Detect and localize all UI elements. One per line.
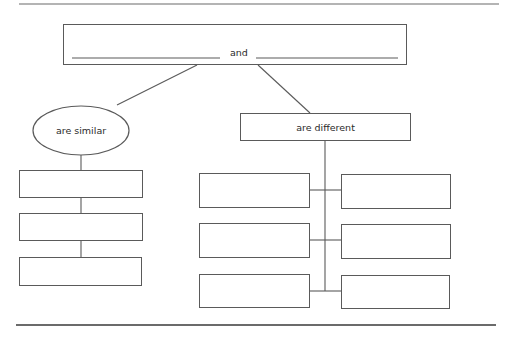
different-left-box-1[interactable] [199, 173, 310, 208]
connector-word: and [230, 47, 248, 58]
different-left-box-2[interactable] [199, 223, 310, 258]
blank-topic-2[interactable] [256, 44, 398, 58]
different-right-box-3[interactable] [341, 275, 450, 309]
different-node: are different [240, 113, 411, 141]
different-label: are different [296, 122, 355, 133]
similar-node: are similar [33, 106, 129, 155]
similar-box-1[interactable] [19, 170, 143, 198]
similar-box-2[interactable] [19, 213, 143, 241]
similar-box-3[interactable] [19, 257, 142, 286]
different-right-box-1[interactable] [341, 174, 451, 209]
different-right-box-2[interactable] [341, 224, 451, 259]
different-left-box-3[interactable] [199, 274, 310, 308]
blank-topic-1[interactable] [72, 44, 220, 58]
similar-label: are similar [56, 125, 106, 136]
